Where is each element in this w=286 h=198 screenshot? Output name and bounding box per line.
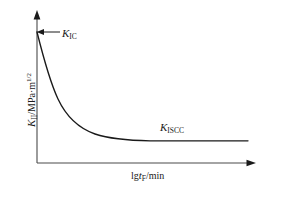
y-axis-title: KII/MPa·m1/2	[22, 45, 38, 155]
x-axis-title-subscript: F	[142, 174, 146, 183]
y-axis-title-symbol: K	[25, 120, 37, 127]
annotation-kiscc-subscript: ISCC	[167, 126, 184, 135]
y-axis-title-subscript: II	[30, 115, 39, 120]
y-axis-title-separator: /MPa·m	[26, 82, 37, 115]
annotation-kic-subscript: IC	[69, 32, 77, 41]
annotation-kiscc: KISCC	[160, 118, 184, 134]
x-axis-title: lgtF/min	[131, 166, 164, 182]
x-axis-title-suffix: /min	[146, 170, 164, 181]
kic-leader-arrow	[37, 29, 61, 35]
x-axis-arrowhead	[247, 160, 257, 167]
y-axis-arrowhead	[34, 10, 41, 20]
y-axis-title-exponent: 1/2	[25, 73, 33, 82]
figure-root: KIC KISCC lgtF/min KII/MPa·m1/2	[0, 0, 286, 198]
x-axis-title-prefix: lg	[131, 170, 139, 181]
scc-decay-curve	[37, 32, 248, 141]
annotation-kic: KIC	[62, 24, 77, 40]
